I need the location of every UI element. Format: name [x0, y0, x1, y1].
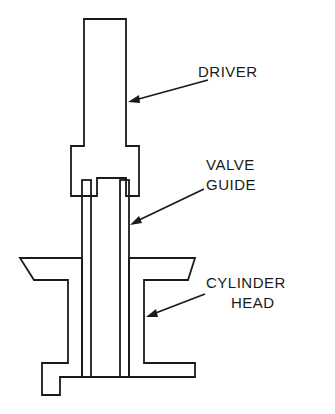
driver-leader-line [135, 80, 208, 100]
label-cylinder-head-line2: HEAD [231, 294, 275, 311]
valve-guide-right-wall [120, 180, 129, 377]
driver-tool [71, 19, 139, 196]
valve-guide-diagram: DRIVER VALVE GUIDE CYLINDER HEAD [0, 0, 335, 414]
label-driver: DRIVER [198, 63, 258, 80]
driver-body [71, 19, 139, 196]
driver-arrowhead [128, 95, 140, 103]
cylinder-head-left [20, 258, 82, 395]
valve-guide-arrowhead [130, 216, 142, 225]
driver-leader [128, 80, 208, 103]
cylinder-head-right [129, 258, 195, 377]
label-cylinder-head-line1: CYLINDER [206, 274, 286, 291]
label-valve-guide-line1: VALVE [206, 156, 255, 173]
valve-guide [82, 180, 129, 377]
cylinder-head-arrowhead [146, 309, 158, 317]
valve-guide-left-wall [82, 180, 91, 377]
label-valve-guide-line2: GUIDE [206, 176, 256, 193]
cylinder-head-leader-line [153, 294, 205, 314]
valve-guide-leader [130, 189, 204, 225]
cylinder-head [20, 258, 195, 395]
cylinder-head-leader [146, 294, 205, 317]
valve-guide-leader-line [137, 189, 204, 221]
